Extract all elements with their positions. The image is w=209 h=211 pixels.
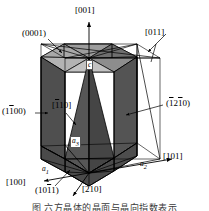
label-direction-100: [100] [6, 178, 26, 187]
label-plane-1-100: (1100) [2, 107, 26, 116]
label-plane--12-10: (1210) [166, 99, 190, 108]
label-axis-a1: a1 [42, 165, 49, 175]
label-plane-0001: (0001) [22, 29, 46, 38]
label-direction-001: [001] [75, 6, 95, 15]
label-vertex-c: c [86, 60, 93, 70]
label-direction--110: [110] [52, 101, 71, 110]
label-direction-101: [101] [163, 152, 183, 161]
figure-caption: 图 六方晶体的晶面与晶向指数表示 [0, 201, 209, 211]
label-direction-210: [210] [82, 185, 102, 194]
hexagonal-crystal-figure: [001] (0001) [011] (1100) (1210) [110] [… [0, 0, 209, 211]
leader-10-11 [55, 170, 70, 186]
label-direction-011: [011] [145, 28, 164, 37]
plane-10-11 [65, 58, 89, 173]
plane-10-11-b [89, 58, 114, 173]
label-axis-a3: a3 [70, 136, 81, 148]
label-plane-10-11: (1011) [35, 186, 59, 195]
label-axis-a2: a2 [140, 160, 147, 170]
